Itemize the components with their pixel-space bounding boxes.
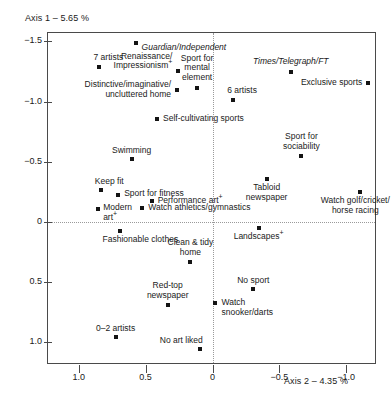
data-point bbox=[195, 86, 199, 90]
data-point bbox=[251, 287, 255, 291]
data-point bbox=[130, 157, 134, 161]
y-tick-label: 0 bbox=[2, 217, 42, 226]
zero-line-horizontal bbox=[48, 222, 375, 223]
correspondence-analysis-biplot: Axis 1 – 5.65 % −1.5−1.0−0.500.51.0 1.00… bbox=[0, 0, 391, 402]
point-label: Swimming bbox=[62, 146, 202, 156]
point-label: Clean & tidyhome bbox=[120, 238, 260, 257]
data-point bbox=[116, 193, 120, 197]
data-point bbox=[96, 207, 100, 211]
data-point bbox=[366, 81, 370, 85]
point-label: Self-cultivating sports bbox=[163, 114, 244, 124]
point-label: 6 artists bbox=[227, 86, 257, 96]
plot-area: −1.5−1.0−0.500.51.0 1.00.50−0.5−1.0 Guar… bbox=[47, 32, 376, 364]
point-label: 0–2 artists bbox=[46, 324, 186, 334]
y-tick bbox=[44, 41, 52, 42]
data-point bbox=[358, 190, 362, 194]
data-point bbox=[166, 303, 170, 307]
data-point bbox=[118, 229, 122, 233]
y-tick bbox=[44, 102, 52, 103]
point-label: Watch golf/cricket/horse racing bbox=[285, 196, 391, 215]
data-point bbox=[188, 260, 192, 264]
data-point bbox=[155, 117, 159, 121]
axis2-caption: Axis 2 – 4.35 % bbox=[284, 376, 348, 386]
data-point bbox=[140, 206, 144, 210]
data-point bbox=[134, 41, 138, 45]
x-tick-label: 0.5 bbox=[126, 373, 166, 382]
data-point bbox=[257, 226, 261, 230]
point-label: Keep fit bbox=[95, 177, 124, 187]
point-label: Distinctive/imaginative/uncluttered home bbox=[11, 80, 171, 99]
y-tick bbox=[44, 162, 52, 163]
data-point bbox=[198, 347, 202, 351]
y-tick bbox=[44, 282, 52, 283]
data-point bbox=[99, 188, 103, 192]
axis1-caption: Axis 1 – 5.65 % bbox=[25, 13, 89, 23]
data-point bbox=[289, 70, 293, 74]
point-label: Red-topnewspaper bbox=[98, 281, 238, 300]
x-tick-label: 0 bbox=[193, 373, 233, 382]
y-tick-label: 0.5 bbox=[2, 277, 42, 286]
y-tick bbox=[44, 222, 52, 223]
y-tick-label: −1.5 bbox=[2, 36, 42, 45]
point-label: Sport formentalelement bbox=[127, 54, 267, 83]
x-tick-label: 1.0 bbox=[59, 373, 99, 382]
point-label: Sport forsociability bbox=[231, 132, 371, 151]
data-point bbox=[175, 88, 179, 92]
point-label: Modernart+ bbox=[103, 203, 132, 222]
point-label: No art liked bbox=[43, 336, 203, 346]
y-tick-label: −0.5 bbox=[2, 157, 42, 166]
data-point bbox=[299, 154, 303, 158]
data-point bbox=[231, 98, 235, 102]
y-tick-label: 1.0 bbox=[2, 337, 42, 346]
point-label: Watchsnooker/darts bbox=[222, 298, 274, 317]
point-label: Watch athletics/gymnastics bbox=[148, 203, 250, 213]
data-point bbox=[213, 301, 217, 305]
data-point bbox=[265, 177, 269, 181]
